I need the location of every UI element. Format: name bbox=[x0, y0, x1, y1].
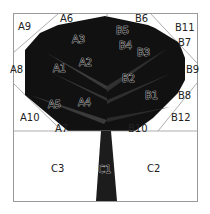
label-a1: A1 bbox=[53, 63, 66, 74]
label-c3: C3 bbox=[51, 163, 64, 174]
label-b12: B12 bbox=[171, 112, 191, 123]
label-b7: B7 bbox=[178, 37, 191, 48]
label-b6: B6 bbox=[135, 13, 148, 24]
label-a9: A9 bbox=[18, 21, 31, 32]
label-b2: B2 bbox=[122, 73, 135, 84]
label-b9: B9 bbox=[186, 64, 199, 75]
tree-quilt-diagram: A9 A6 B6 B11 A8 B9 A10 B12 A7 B10 B7 B8 … bbox=[0, 0, 210, 214]
label-b3: B3 bbox=[137, 47, 150, 58]
label-b10: B10 bbox=[128, 123, 148, 134]
label-a2: A2 bbox=[79, 57, 92, 68]
label-a3: A3 bbox=[72, 34, 85, 45]
label-a10: A10 bbox=[20, 112, 40, 123]
label-a6: A6 bbox=[60, 13, 73, 24]
label-a4: A4 bbox=[78, 97, 91, 108]
label-c1: C1 bbox=[98, 164, 111, 175]
label-b11: B11 bbox=[175, 22, 195, 33]
label-c2: C2 bbox=[147, 163, 160, 174]
label-b8: B8 bbox=[178, 90, 191, 101]
label-a5: A5 bbox=[48, 99, 61, 110]
label-a7: A7 bbox=[55, 123, 68, 134]
label-a8: A8 bbox=[10, 64, 23, 75]
label-b5: B5 bbox=[116, 25, 129, 36]
label-b4: B4 bbox=[119, 40, 132, 51]
label-b1: B1 bbox=[145, 90, 158, 101]
